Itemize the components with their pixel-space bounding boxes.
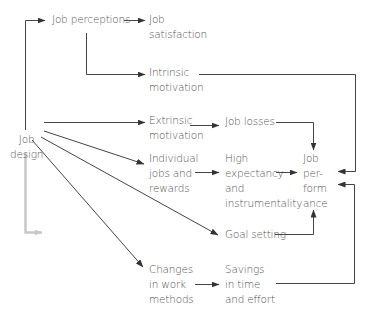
arrow-perceptions-to-intrinsic: [87, 33, 146, 75]
node-job-perceptions: Job perceptions: [52, 12, 130, 27]
arrow-design-to-changes: [32, 140, 143, 267]
node-job-losses: Job losses: [225, 114, 275, 129]
node-savings-time-effort: Savings in time and effort: [225, 262, 275, 307]
faded-arrow-icon: [26, 153, 43, 233]
node-job-satisfaction: Job satisfaction: [149, 12, 207, 42]
job-design-diagram: Job design Job perceptions Job satisfact…: [0, 0, 371, 311]
node-extrinsic-motivation: Extrinsic motivation: [149, 113, 203, 143]
node-job-design: Job design: [10, 132, 43, 162]
arrow-design-to-perceptions: [26, 21, 46, 131]
arrow-losses-to-performance: [276, 123, 314, 151]
node-job-performance: Job per- form ance: [303, 151, 328, 211]
node-goal-setting: Goal setting: [225, 227, 286, 242]
node-high-expectancy: High expectancy and instrumentality: [225, 151, 302, 211]
node-individual-jobs-rewards: Individual jobs and rewards: [149, 151, 198, 196]
node-intrinsic-motivation: Intrinsic motivation: [149, 65, 203, 95]
node-changes-work-methods: Changes in work methods: [149, 262, 194, 307]
